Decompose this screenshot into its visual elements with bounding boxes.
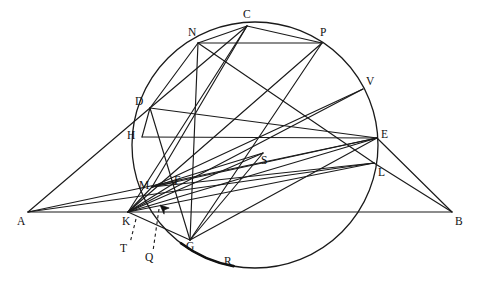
point-label-T: T bbox=[120, 243, 127, 255]
segment-L-K bbox=[128, 163, 374, 212]
segment-K-G bbox=[128, 212, 190, 240]
point-label-D: D bbox=[135, 96, 144, 108]
segment-C-P bbox=[247, 26, 322, 43]
point-label-S: S bbox=[261, 155, 268, 167]
segment-A-L bbox=[28, 163, 374, 212]
point-label-K: K bbox=[122, 216, 131, 228]
point-label-Q: Q bbox=[145, 252, 154, 264]
geometry-canvas bbox=[0, 0, 479, 282]
segment-N-C bbox=[198, 26, 247, 43]
segment-H-D bbox=[142, 108, 150, 137]
segments-group bbox=[28, 26, 452, 240]
point-label-E: E bbox=[381, 129, 388, 141]
point-label-B: B bbox=[455, 216, 463, 228]
segment-A-D bbox=[28, 108, 150, 212]
point-label-V: V bbox=[366, 76, 375, 88]
point-label-G: G bbox=[186, 241, 195, 253]
segment-S-G bbox=[190, 153, 263, 240]
segment-D-G bbox=[150, 108, 190, 240]
point-label-M: M bbox=[139, 180, 149, 192]
point-label-L: L bbox=[378, 167, 385, 179]
point-label-C: C bbox=[243, 9, 251, 21]
point-label-F: F bbox=[174, 175, 181, 187]
point-label-A: A bbox=[17, 216, 26, 228]
segment-L-M bbox=[152, 163, 374, 187]
point-label-P: P bbox=[320, 27, 327, 39]
segment-E-B bbox=[377, 138, 452, 212]
point-label-R: R bbox=[224, 256, 232, 268]
segment-L-B bbox=[374, 163, 452, 212]
segment-E-K bbox=[128, 138, 377, 212]
point-label-N: N bbox=[188, 27, 197, 39]
point-label-H: H bbox=[127, 130, 136, 142]
geometry-figure: ABCNPVDHELSMFKGRTQ bbox=[0, 0, 479, 282]
